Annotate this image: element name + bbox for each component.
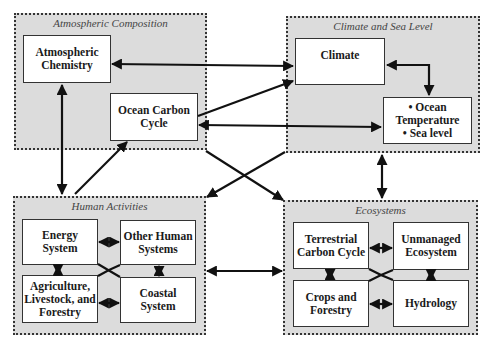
group-title: Atmospheric Composition (16, 17, 205, 29)
box-label-line: Energy (42, 229, 78, 242)
box-unmanaged-ecosystem: Unmanaged Ecosystem (393, 222, 469, 270)
box-label-line: • Ocean (396, 101, 460, 114)
box-label-line: System (42, 242, 78, 255)
box-terrestrial-carbon-cycle: Terrestrial Carbon Cycle (293, 222, 369, 269)
box-label-line: Other Human (123, 230, 192, 243)
box-label-line: Ocean Carbon (118, 104, 190, 117)
box-ocean-temperature-sea-level: • Ocean Temperature • Sea level (383, 97, 472, 144)
box-label-line: Crops and (305, 291, 356, 304)
arrow-oceancarbon-climate (198, 81, 293, 116)
box-crops-and-forestry: Crops and Forestry (293, 280, 369, 327)
box-label-line: Forestry (24, 306, 96, 319)
box-label-line: • Sea level (396, 127, 460, 140)
box-label-line: Terrestrial (297, 233, 365, 246)
arrow-atmosgroup-ecosystems (206, 151, 283, 200)
box-climate: Climate (295, 38, 385, 85)
box-label-line: Forestry (305, 304, 356, 317)
box-other-human-systems: Other Human Systems (120, 220, 196, 265)
group-title: Climate and Sea Level (288, 20, 478, 32)
box-label-line: Hydrology (405, 297, 457, 310)
group-title: Human Activities (15, 200, 204, 212)
box-ocean-carbon-cycle: Ocean Carbon Cycle (110, 93, 198, 141)
box-label-line: Chemistry (35, 59, 98, 72)
box-label-line: Climate (321, 49, 360, 62)
box-coastal-system: Coastal System (120, 277, 196, 323)
box-atmospheric-chemistry: Atmospheric Chemistry (23, 35, 111, 83)
box-label-line: Atmospheric (35, 46, 98, 59)
box-label-line: Livestock, and (24, 293, 96, 306)
box-label-line: Carbon Cycle (297, 246, 365, 259)
box-label-line: Temperature (396, 114, 460, 127)
box-label-line: System (139, 300, 176, 313)
box-label-line: Ecosystem (401, 246, 460, 259)
group-title: Ecosystems (285, 204, 476, 216)
box-label-line: Agriculture, (24, 280, 96, 293)
box-label-line: Systems (123, 243, 192, 256)
arrow-climategroup-human (207, 152, 285, 197)
box-energy-system: Energy System (22, 219, 98, 265)
box-label-line: Unmanaged (401, 233, 460, 246)
box-hydrology: Hydrology (393, 280, 469, 327)
box-agriculture-livestock-forestry: Agriculture, Livestock, and Forestry (22, 275, 98, 323)
box-label-line: Cycle (118, 117, 190, 130)
box-label-line: Coastal (139, 287, 176, 300)
